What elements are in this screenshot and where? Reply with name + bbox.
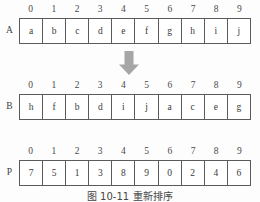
array-cells-b: h f b d i j a c e g — [19, 94, 251, 120]
index-label: 1 — [42, 78, 65, 93]
array-cell: f — [135, 19, 158, 43]
array-cell: 2 — [182, 161, 205, 185]
index-label: 2 — [65, 78, 88, 93]
array-cell: g — [228, 95, 251, 119]
array-block-b: 0 1 2 3 4 5 6 7 8 9 B h f b d i j a c e … — [0, 78, 260, 120]
index-label: 2 — [65, 144, 88, 159]
array-cell: h — [182, 19, 205, 43]
index-label: 9 — [228, 2, 251, 17]
array-cell: b — [43, 19, 66, 43]
array-row-p: P 7 5 1 3 8 9 0 2 4 6 — [0, 159, 260, 186]
index-label: 7 — [181, 2, 204, 17]
permutation-figure: 0 1 2 3 4 5 6 7 8 9 A a b c d e f g h i … — [0, 0, 260, 202]
index-label: 6 — [158, 2, 181, 17]
index-label: 6 — [158, 144, 181, 159]
index-row-p: 0 1 2 3 4 5 6 7 8 9 — [19, 144, 251, 159]
array-cells-p: 7 5 1 3 8 9 0 2 4 6 — [19, 160, 251, 186]
array-name-p: P — [0, 159, 19, 186]
index-row-b: 0 1 2 3 4 5 6 7 8 9 — [19, 78, 251, 93]
figure-number: 图 10-11 — [87, 191, 129, 202]
array-cell: h — [20, 95, 43, 119]
array-cell: f — [43, 95, 66, 119]
index-label: 3 — [89, 78, 112, 93]
index-label: 8 — [205, 144, 228, 159]
array-cell: 9 — [135, 161, 158, 185]
array-cell: 6 — [228, 161, 251, 185]
down-arrow-icon — [116, 50, 142, 76]
array-cell: 3 — [89, 161, 112, 185]
array-name-a: A — [0, 17, 19, 44]
array-name-b: B — [0, 93, 19, 120]
array-cell: 5 — [43, 161, 66, 185]
array-cell: c — [182, 95, 205, 119]
array-cell: a — [159, 95, 182, 119]
array-cell: e — [205, 95, 228, 119]
index-label: 0 — [19, 2, 42, 17]
index-label: 0 — [19, 78, 42, 93]
array-cell: j — [135, 95, 158, 119]
array-block-a: 0 1 2 3 4 5 6 7 8 9 A a b c d e f g h i … — [0, 2, 260, 44]
index-label: 2 — [65, 2, 88, 17]
index-label: 7 — [181, 144, 204, 159]
index-label: 4 — [112, 2, 135, 17]
index-label: 3 — [89, 2, 112, 17]
index-label: 4 — [112, 78, 135, 93]
array-cell: a — [20, 19, 43, 43]
array-cell: 0 — [159, 161, 182, 185]
index-label: 5 — [135, 2, 158, 17]
array-cell: 7 — [20, 161, 43, 185]
figure-caption: 图 10-11重新排序 — [0, 191, 260, 202]
array-cell: c — [66, 19, 89, 43]
array-cell: 1 — [66, 161, 89, 185]
index-label: 3 — [89, 144, 112, 159]
index-label: 8 — [205, 2, 228, 17]
index-label: 8 — [205, 78, 228, 93]
index-label: 5 — [135, 78, 158, 93]
array-cell: 4 — [205, 161, 228, 185]
figure-caption-text: 重新排序 — [133, 191, 173, 202]
array-cell: d — [89, 95, 112, 119]
array-block-p: 0 1 2 3 4 5 6 7 8 9 P 7 5 1 3 8 9 0 2 4 … — [0, 144, 260, 186]
index-label: 9 — [228, 144, 251, 159]
array-cell: j — [228, 19, 251, 43]
index-label: 4 — [112, 144, 135, 159]
index-label: 5 — [135, 144, 158, 159]
index-label: 1 — [42, 2, 65, 17]
array-row-b: B h f b d i j a c e g — [0, 93, 260, 120]
index-label: 9 — [228, 78, 251, 93]
array-cell: i — [205, 19, 228, 43]
array-cells-a: a b c d e f g h i j — [19, 18, 251, 44]
array-cell: g — [159, 19, 182, 43]
index-label: 0 — [19, 144, 42, 159]
index-label: 1 — [42, 144, 65, 159]
array-cell: 8 — [112, 161, 135, 185]
array-cell: i — [112, 95, 135, 119]
index-label: 6 — [158, 78, 181, 93]
array-row-a: A a b c d e f g h i j — [0, 17, 260, 44]
array-cell: d — [89, 19, 112, 43]
array-cell: b — [66, 95, 89, 119]
index-row-a: 0 1 2 3 4 5 6 7 8 9 — [19, 2, 251, 17]
index-label: 7 — [181, 78, 204, 93]
array-cell: e — [112, 19, 135, 43]
